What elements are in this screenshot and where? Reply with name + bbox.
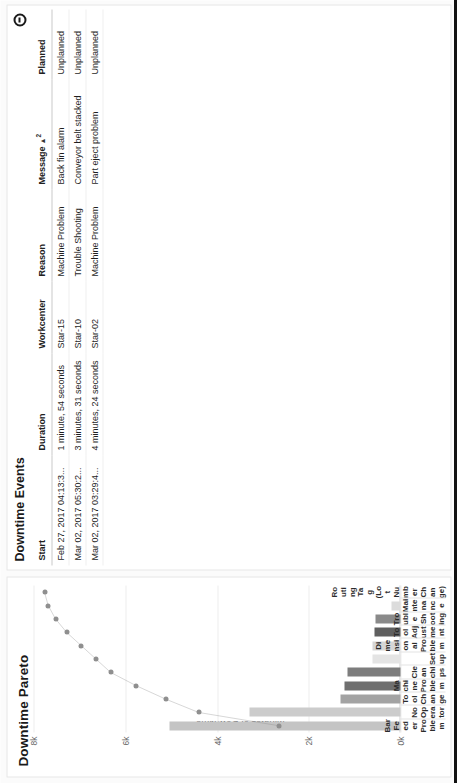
x-axis-label[interactable]: No Operator (410, 705, 446, 718)
table-header-workcenter[interactable]: Workcenter (30, 281, 52, 353)
bar[interactable] (249, 707, 400, 716)
bar[interactable] (391, 601, 400, 610)
table-panel-header: Downtime Events (7, 5, 30, 569)
table-header-label: Start (36, 539, 46, 560)
downtime-pareto-panel: Downtime Pareto Minutes of Downtime 0k2k… (6, 576, 451, 777)
minus-circle-icon[interactable] (13, 13, 26, 26)
y-tick-label: 6k (120, 736, 130, 745)
x-axis-label[interactable]: Clean chips (410, 665, 446, 678)
x-axis-label[interactable]: Maintenance (401, 598, 446, 611)
table-cell-planned: Unplanned (52, 9, 69, 79)
table-cell-duration: 4 minutes, 24 seconds (86, 353, 103, 455)
table-cell-duration: 3 minutes, 31 seconds (69, 353, 86, 455)
x-axis-label[interactable]: Setup (428, 652, 446, 665)
table-cell-message: Part eject problem (86, 79, 103, 189)
table-header-reason[interactable]: Reason (30, 189, 52, 281)
table-cell-workcenter: Star-10 (69, 281, 86, 353)
table-cell-planned: Unplanned (69, 9, 86, 79)
downtime-events-table: StartDurationWorkcenterReasonMessage▲2Pl… (30, 9, 103, 565)
table-head: StartDurationWorkcenterReasonMessage▲2Pl… (30, 9, 52, 565)
category-separator (399, 637, 445, 638)
table-cell-reason: Machine Problem (86, 189, 103, 281)
y-axis-ticks: 0k2k4k6k8k (33, 734, 400, 756)
table-cell-workcenter: Star-15 (52, 281, 69, 353)
table-row[interactable]: Feb 27, 2017 04:13:3...1 minute, 54 seco… (52, 9, 69, 565)
category-separator (399, 624, 445, 625)
downtime-events-panel: Downtime Events StartDurationWorkcenterR… (6, 4, 451, 570)
gridline (125, 585, 126, 732)
x-axis-label[interactable]: Machine Problem (392, 679, 446, 692)
table-body: Feb 27, 2017 04:13:3...1 minute, 54 seco… (52, 9, 103, 565)
chart-plot-area: Minutes of Downtime 0k2k4k6k8k Bar Feede… (33, 583, 446, 770)
y-tick-label: 4k (212, 736, 222, 745)
category-separator (399, 651, 445, 652)
y-tick-label: 8k (28, 736, 38, 745)
sort-ascending-icon[interactable]: ▲ (38, 137, 45, 144)
category-separator (399, 691, 445, 692)
x-axis-label[interactable]: Tool Change (401, 692, 446, 705)
bar[interactable] (372, 654, 400, 663)
table-cell-start: Feb 27, 2017 04:13:3... (52, 455, 69, 565)
category-separator (399, 597, 445, 598)
x-axis-label[interactable]: Dimensional Problem (374, 638, 446, 651)
table-cell-reason: Machine Problem (52, 189, 69, 281)
y-tick-label: 0k (395, 736, 405, 745)
bar[interactable] (169, 721, 400, 730)
bar[interactable] (347, 667, 400, 676)
table-header-label: Message (36, 146, 46, 184)
table-cell-start: Mar 02, 2017 05:30:2... (69, 455, 86, 565)
table-title: Downtime Events (12, 457, 26, 561)
plot-canvas (33, 585, 400, 732)
gridline (33, 585, 34, 732)
bar[interactable] (340, 694, 400, 703)
table-header-planned[interactable]: Planned (30, 9, 52, 79)
table-header-duration[interactable]: Duration (30, 353, 52, 455)
table-cell-duration: 1 minute, 54 seconds (52, 353, 69, 455)
x-axis-label[interactable]: Tool Adjustment (392, 625, 446, 638)
table-cell-planned: Unplanned (86, 9, 103, 79)
category-separator (399, 611, 445, 612)
x-axis-category-labels: Bar Feeder ProblemNo OperatorTool Change… (400, 585, 446, 732)
table-row[interactable]: Mar 02, 2017 03:29:4...4 minutes, 24 sec… (86, 9, 103, 565)
table-header-label: Duration (36, 413, 46, 450)
category-separator (399, 678, 445, 679)
gridline (217, 585, 218, 732)
dashboard: Downtime Pareto Minutes of Downtime 0k2k… (0, 0, 457, 783)
table-row[interactable]: Mar 02, 2017 05:30:2...3 minutes, 31 sec… (69, 9, 86, 565)
category-separator (399, 704, 445, 705)
table-header-message[interactable]: Message▲2 (30, 79, 52, 189)
table-header-row: StartDurationWorkcenterReasonMessage▲2Pl… (30, 9, 52, 565)
table-cell-workcenter: Star-02 (86, 281, 103, 353)
x-axis-label[interactable]: Routing Tag (Lot Number Change) (330, 585, 446, 598)
y-tick-label: 2k (303, 736, 313, 745)
table-cell-reason: Trouble Shooting (69, 189, 86, 281)
table-header-start[interactable]: Start (30, 455, 52, 565)
table-cell-message: Back fin alarm (52, 79, 69, 189)
x-axis-label[interactable]: Trouble Shooting (392, 612, 446, 625)
x-axis-label[interactable]: Bar Feeder Problem (383, 719, 446, 732)
category-separator (399, 718, 445, 719)
table-header-label: Workcenter (36, 299, 46, 348)
table-header-label: Planned (36, 39, 46, 74)
table-cell-message: Conveyor belt stacked (69, 79, 86, 189)
category-separator (399, 664, 445, 665)
table-cell-start: Mar 02, 2017 03:29:4... (86, 455, 103, 565)
rotated-dashboard-frame: Downtime Pareto Minutes of Downtime 0k2k… (0, 0, 457, 783)
table-header-label: Reason (36, 243, 46, 276)
sort-order-badge: 2 (34, 133, 41, 137)
table-scroll-region[interactable]: StartDurationWorkcenterReasonMessage▲2Pl… (30, 5, 450, 569)
